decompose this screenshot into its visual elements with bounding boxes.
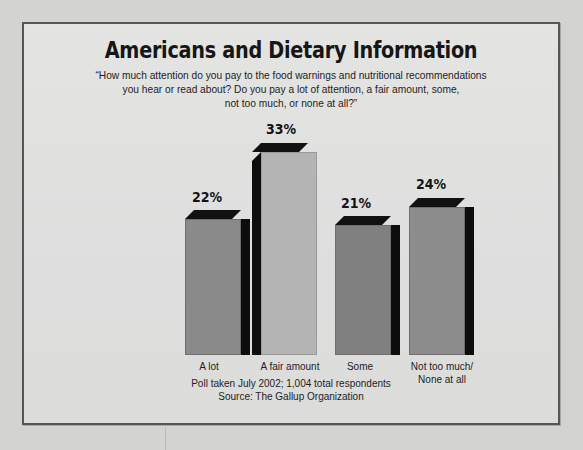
bar-not-too-much[interactable] bbox=[409, 207, 465, 355]
bar-some[interactable] bbox=[335, 225, 391, 355]
bar-side-face-1 bbox=[241, 219, 250, 355]
plot-area: 22% 33% 21% bbox=[24, 120, 562, 355]
bar-front-face-2 bbox=[261, 152, 317, 355]
bar-side-face-4 bbox=[465, 207, 474, 355]
chart-subtitle-line-3: not too much, or none at all?” bbox=[71, 96, 511, 110]
page-artifact-line bbox=[165, 427, 166, 450]
chart-frame: Americans and Dietary Information “How m… bbox=[22, 22, 560, 425]
chart-subtitle-line-1: “How much attention do you pay to the fo… bbox=[71, 68, 511, 82]
bar-value-label-3: 21% bbox=[328, 195, 384, 211]
category-label-not-too-much-line-1: Not too much/ bbox=[387, 360, 497, 373]
chart-title: Americans and Dietary Information bbox=[43, 37, 540, 63]
bar-front-face-4 bbox=[409, 207, 465, 355]
bar-a-lot[interactable] bbox=[185, 219, 241, 355]
chart-subtitle-line-2: you hear or read about? Do you pay a lot… bbox=[71, 82, 511, 96]
bar-top-face-1 bbox=[185, 210, 241, 219]
bar-a-fair-amount[interactable] bbox=[261, 152, 317, 355]
bar-value-label-2: 33% bbox=[253, 121, 309, 137]
bar-front-face-3 bbox=[335, 225, 391, 355]
bar-side-face-2 bbox=[252, 152, 261, 355]
chart-panel: Americans and Dietary Information “How m… bbox=[24, 24, 558, 423]
chart-footnote-line-1: Poll taken July 2002; 1,004 total respon… bbox=[24, 377, 558, 390]
category-label-a-lot: A lot bbox=[179, 360, 239, 373]
bar-top-face-2 bbox=[252, 143, 308, 152]
category-label-some-line-1: Some bbox=[328, 360, 392, 373]
bar-front-face-1 bbox=[185, 219, 241, 355]
bar-side-face-3 bbox=[391, 225, 400, 355]
category-label-a-lot-line-1: A lot bbox=[179, 360, 239, 373]
category-label-some: Some bbox=[328, 360, 392, 373]
chart-footnote: Poll taken July 2002; 1,004 total respon… bbox=[24, 377, 558, 403]
bar-value-label-4: 24% bbox=[403, 176, 459, 192]
chart-subtitle: “How much attention do you pay to the fo… bbox=[64, 68, 518, 110]
bar-top-face-3 bbox=[335, 216, 391, 225]
bar-value-label-1: 22% bbox=[179, 189, 235, 205]
bar-top-face-4 bbox=[409, 198, 465, 207]
chart-footnote-line-2: Source: The Gallup Organization bbox=[24, 390, 558, 403]
